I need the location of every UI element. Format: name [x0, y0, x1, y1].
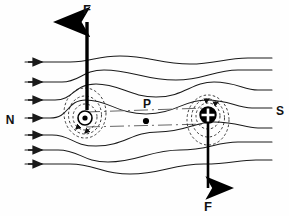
label-north-pole: N: [6, 113, 15, 127]
point-p-dot: [143, 118, 149, 124]
label-force-bottom: F: [204, 199, 212, 214]
label-south-pole: S: [276, 104, 284, 118]
current-out-dot-icon: [82, 115, 87, 120]
right-conductor-into-page: [200, 107, 216, 123]
neutral-point-p: [143, 118, 149, 124]
label-force-top: F: [83, 2, 91, 17]
physics-field-diagram: F F N S P: [0, 0, 289, 216]
label-point-p: P: [143, 97, 151, 111]
left-conductor-out-of-page: [78, 111, 92, 125]
